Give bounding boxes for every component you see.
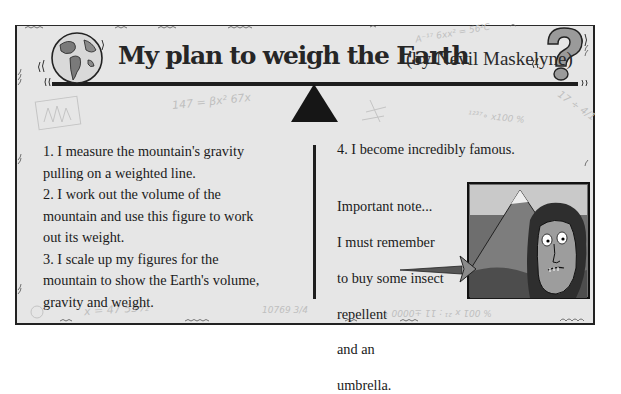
seesaw-bar xyxy=(52,82,578,86)
step-line: mountain and use this figure to work xyxy=(43,206,303,228)
note-line: repellent xyxy=(337,304,477,326)
note-line: umbrella. xyxy=(337,375,477,394)
step-line: mountain to show the Earth's volume, xyxy=(43,270,303,292)
step-line: 3. I scale up my figures for the xyxy=(43,249,303,271)
step-line: 2. I work out the volume of the xyxy=(43,184,303,206)
step-4: 4. I become incredibly famous. xyxy=(337,141,515,158)
fulcrum-triangle-icon xyxy=(291,84,338,122)
note-line: Important note... xyxy=(337,196,477,218)
note-line: to buy some insect xyxy=(337,268,477,290)
step-line: pulling on a weighted line. xyxy=(43,163,303,185)
steps-list-left: 1. I measure the mountain's gravity pull… xyxy=(43,141,303,313)
globe-icon xyxy=(52,33,102,83)
step-line: gravity and weight. xyxy=(43,292,303,314)
mountain-portrait-illustration xyxy=(468,183,589,298)
note-line: I must remember xyxy=(337,232,477,254)
important-note: Important note... I must remember to buy… xyxy=(337,182,477,394)
step-line: out its weight. xyxy=(43,227,303,249)
column-divider xyxy=(313,145,316,299)
byline: (by Nevil Maskelyne) xyxy=(406,48,573,70)
note-line: and an xyxy=(337,339,477,361)
step-line: 1. I measure the mountain's gravity xyxy=(43,141,303,163)
